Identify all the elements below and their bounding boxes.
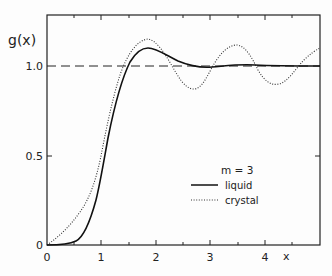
legend: m = 3 liquid crystal — [191, 164, 259, 206]
x-tick-label: 0 — [44, 251, 51, 264]
y-tick-label: 0 — [36, 239, 43, 252]
y-tick-label: 1.0 — [26, 60, 44, 73]
x-tick-label: 2 — [153, 251, 160, 264]
legend-title: m = 3 — [221, 164, 253, 176]
crystal-curve — [47, 39, 320, 245]
chart-canvas: g(x) x 1.0 0.5 0 0 1 2 3 4 m = 3 liquid … — [0, 0, 332, 276]
x-axis-label: x — [283, 250, 290, 263]
x-tick-label: 3 — [207, 251, 214, 264]
y-tick-label: 0.5 — [26, 150, 44, 163]
x-axis-ticks — [74, 240, 292, 245]
y-axis-label: g(x) — [8, 32, 36, 48]
legend-crystal-label: crystal — [225, 195, 259, 206]
x-tick-label: 1 — [98, 251, 105, 264]
liquid-curve — [47, 48, 320, 245]
x-tick-label: 4 — [262, 251, 269, 264]
top-ticks — [74, 15, 292, 20]
plot-frame — [47, 15, 320, 245]
legend-liquid-label: liquid — [225, 180, 252, 191]
